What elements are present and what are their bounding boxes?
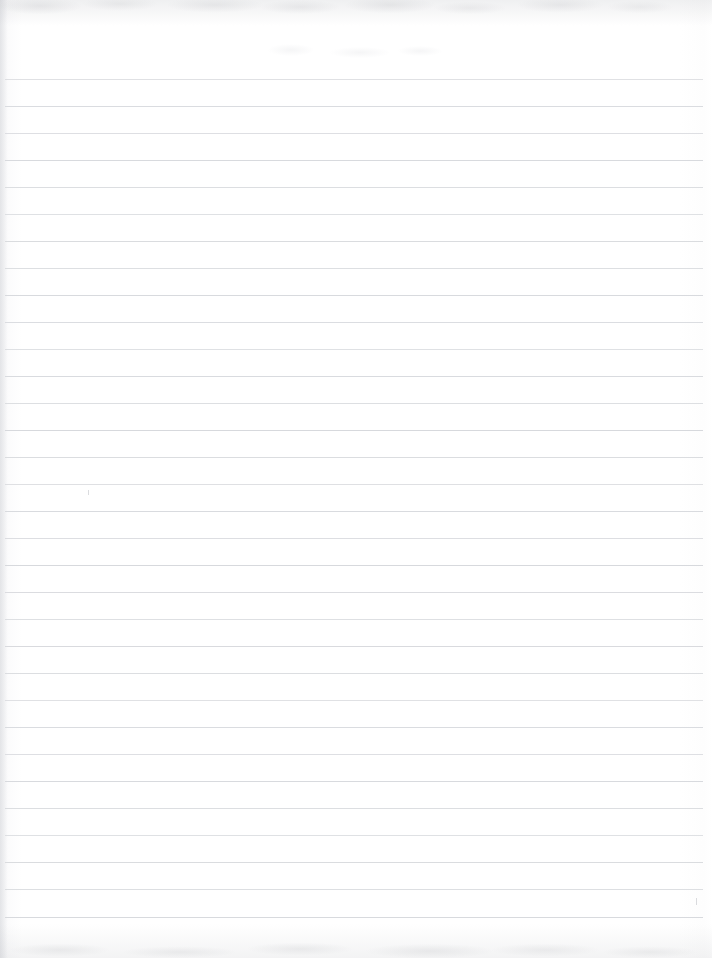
paper-sheet (0, 0, 712, 958)
scanned-page (0, 0, 712, 958)
